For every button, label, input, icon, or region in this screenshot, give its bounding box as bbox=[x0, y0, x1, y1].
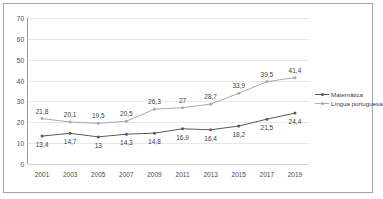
value-label: 28,7 bbox=[204, 93, 217, 100]
data-point bbox=[69, 121, 72, 124]
data-point bbox=[237, 92, 240, 95]
value-label: 33,9 bbox=[232, 82, 245, 89]
gridline-0 bbox=[28, 164, 309, 165]
data-point bbox=[181, 127, 184, 130]
value-label: 14,7 bbox=[64, 138, 77, 145]
data-point bbox=[265, 80, 268, 83]
x-tick-2017: 2017 bbox=[260, 171, 274, 178]
value-label: 39,5 bbox=[261, 70, 274, 77]
chart-legend: MatemáticaLíngua portuguesa bbox=[315, 90, 383, 108]
x-tick-2013: 2013 bbox=[203, 171, 217, 178]
x-tick-2005: 2005 bbox=[91, 171, 105, 178]
plot-area: 010203040506070 200120032005200720092011… bbox=[28, 18, 309, 164]
series-line-1 bbox=[42, 78, 295, 124]
value-label: 41,4 bbox=[289, 66, 302, 73]
data-point bbox=[41, 135, 44, 138]
data-point bbox=[209, 103, 212, 106]
data-point bbox=[153, 132, 156, 135]
y-tick-0: 0 bbox=[20, 161, 24, 168]
data-point bbox=[293, 76, 296, 79]
value-label: 21,8 bbox=[36, 107, 49, 114]
x-tick-2003: 2003 bbox=[63, 171, 77, 178]
data-point bbox=[69, 132, 72, 135]
data-point bbox=[41, 117, 44, 120]
data-point bbox=[125, 133, 128, 136]
value-label: 16,9 bbox=[176, 133, 189, 140]
y-tick-10: 10 bbox=[17, 140, 24, 147]
legend-swatch-icon bbox=[315, 100, 329, 107]
value-label: 24,4 bbox=[289, 118, 302, 125]
data-point bbox=[153, 108, 156, 111]
y-tick-50: 50 bbox=[17, 56, 24, 63]
y-tick-20: 20 bbox=[17, 119, 24, 126]
y-tick-40: 40 bbox=[17, 77, 24, 84]
value-label: 16,4 bbox=[204, 134, 217, 141]
value-label: 13,4 bbox=[36, 141, 49, 148]
legend-item-1[interactable]: Língua portuguesa bbox=[315, 99, 383, 108]
legend-item-0[interactable]: Matemática bbox=[315, 90, 383, 99]
value-label: 20,5 bbox=[120, 110, 133, 117]
legend-label: Matemática bbox=[331, 91, 363, 98]
data-point bbox=[181, 106, 184, 109]
data-point bbox=[97, 122, 100, 125]
legend-swatch-icon bbox=[315, 91, 329, 98]
value-label: 14,8 bbox=[148, 138, 161, 145]
data-point bbox=[125, 120, 128, 123]
value-label: 27 bbox=[179, 96, 186, 103]
series-line-0 bbox=[42, 113, 295, 137]
data-point bbox=[265, 118, 268, 121]
value-label: 19,5 bbox=[92, 112, 105, 119]
x-tick-2015: 2015 bbox=[232, 171, 246, 178]
value-label: 14,3 bbox=[120, 139, 133, 146]
legend-label: Língua portuguesa bbox=[331, 100, 383, 107]
chart-frame: 010203040506070 200120032005200720092011… bbox=[3, 3, 373, 193]
y-tick-70: 70 bbox=[17, 15, 24, 22]
data-point bbox=[237, 125, 240, 128]
x-tick-2011: 2011 bbox=[176, 171, 190, 178]
x-tick-2019: 2019 bbox=[288, 171, 302, 178]
value-label: 20,1 bbox=[64, 111, 77, 118]
value-label: 26,3 bbox=[148, 98, 161, 105]
value-label: 13 bbox=[95, 141, 102, 148]
x-tick-2007: 2007 bbox=[119, 171, 133, 178]
value-label: 18,2 bbox=[232, 131, 245, 138]
y-tick-30: 30 bbox=[17, 98, 24, 105]
data-point bbox=[293, 112, 296, 115]
data-point bbox=[209, 128, 212, 131]
data-point bbox=[97, 135, 100, 138]
y-tick-60: 60 bbox=[17, 35, 24, 42]
x-tick-2009: 2009 bbox=[147, 171, 161, 178]
x-tick-2001: 2001 bbox=[35, 171, 49, 178]
value-label: 21,5 bbox=[261, 124, 274, 131]
